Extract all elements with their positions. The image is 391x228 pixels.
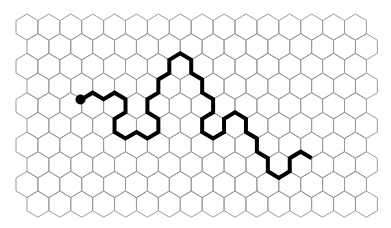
hex-cell [279, 93, 301, 119]
hex-cell [169, 93, 191, 119]
hex-cell [301, 93, 323, 119]
hex-cell [126, 14, 148, 40]
hex-cell [104, 53, 126, 79]
hex-cell [93, 34, 115, 60]
hex-cell [71, 34, 93, 60]
hex-cell [235, 53, 257, 79]
hex-cell [104, 171, 126, 197]
hex-cell [323, 132, 345, 158]
hex-cell [301, 14, 323, 40]
hex-cell [334, 191, 356, 217]
hex-cell [93, 191, 115, 217]
hex-cell [290, 73, 312, 99]
hex-cell [334, 152, 356, 178]
hex-cell [290, 191, 312, 217]
hex-cell [60, 14, 82, 40]
hex-cell [49, 112, 71, 138]
hex-cell [180, 112, 202, 138]
hex-cell [345, 53, 367, 79]
hex-cell [147, 14, 169, 40]
hex-cell [246, 34, 268, 60]
hex-cell [257, 53, 279, 79]
hex-cell [169, 132, 191, 158]
hex-cell [191, 14, 213, 40]
hex-cell [268, 73, 290, 99]
hex-cell [169, 14, 191, 40]
hex-cell [38, 93, 60, 119]
hex-cell [27, 152, 49, 178]
hex-cell [49, 191, 71, 217]
hex-cell [355, 191, 377, 217]
hex-cell [27, 34, 49, 60]
hex-cell [49, 152, 71, 178]
hex-cell [16, 171, 38, 197]
hex-cell [224, 73, 246, 99]
hex-cell [115, 152, 137, 178]
hex-cell [16, 132, 38, 158]
hex-cell [213, 53, 235, 79]
hex-cell [323, 93, 345, 119]
hex-cell [191, 171, 213, 197]
hex-path [76, 53, 312, 178]
hex-cell [115, 191, 137, 217]
hex-cell [126, 93, 148, 119]
hex-cell [246, 191, 268, 217]
hex-cell [279, 53, 301, 79]
hex-cell [136, 152, 158, 178]
hex-cell [312, 34, 334, 60]
hex-cell [60, 53, 82, 79]
hex-cell [224, 34, 246, 60]
hex-cell [71, 191, 93, 217]
hex-cell [224, 152, 246, 178]
hex-cell [246, 73, 268, 99]
hex-cell [345, 14, 367, 40]
hex-cell [16, 53, 38, 79]
hex-cell [312, 73, 334, 99]
hex-cell [257, 93, 279, 119]
hex-cell [345, 93, 367, 119]
hex-cell [257, 14, 279, 40]
hex-cell [345, 171, 367, 197]
hex-cell [82, 14, 104, 40]
hex-cell [202, 152, 224, 178]
hex-cell [147, 171, 169, 197]
hex-cell [16, 14, 38, 40]
hex-cell [93, 152, 115, 178]
hex-cell [180, 152, 202, 178]
hex-cell [158, 112, 180, 138]
path-start-marker [76, 95, 86, 105]
hex-cell [27, 112, 49, 138]
hex-cell [345, 132, 367, 158]
hex-cell [82, 171, 104, 197]
hex-cell [202, 191, 224, 217]
hex-cell [279, 14, 301, 40]
hex-cell [104, 14, 126, 40]
hex-cell [71, 152, 93, 178]
hex-cell [268, 191, 290, 217]
hex-cell [355, 73, 377, 99]
hex-cell [115, 34, 137, 60]
hex-cell [49, 73, 71, 99]
hex-cell [323, 171, 345, 197]
hex-cell [60, 171, 82, 197]
hex-cell [27, 73, 49, 99]
hex-cell [235, 14, 257, 40]
hex-cell [38, 132, 60, 158]
hex-cell [27, 191, 49, 217]
hex-cell [268, 112, 290, 138]
hex-cell [334, 112, 356, 138]
hex-cell [334, 73, 356, 99]
hex-grid-diagram [0, 0, 391, 228]
hex-cell [323, 53, 345, 79]
hex-grid [16, 14, 377, 217]
hex-cell [60, 132, 82, 158]
hex-cell [301, 53, 323, 79]
hex-cell [49, 34, 71, 60]
hex-cell [312, 112, 334, 138]
hex-cell [136, 34, 158, 60]
hex-cell [158, 152, 180, 178]
hex-cell [136, 191, 158, 217]
hex-cell [82, 132, 104, 158]
hex-cell [169, 171, 191, 197]
hex-cell [213, 171, 235, 197]
